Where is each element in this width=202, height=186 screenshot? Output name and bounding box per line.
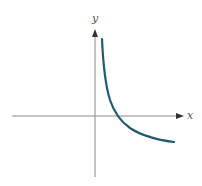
y-axis-arrow-icon (92, 29, 98, 37)
curve (102, 39, 174, 142)
plot-svg (0, 0, 202, 186)
plot-canvas: y x (0, 0, 202, 186)
x-axis-label: x (187, 110, 193, 121)
x-axis-arrow-icon (176, 113, 184, 119)
y-axis-label: y (92, 13, 98, 24)
